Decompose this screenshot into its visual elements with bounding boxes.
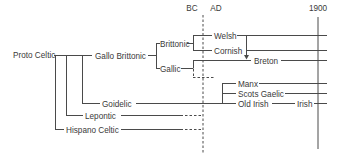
node-hispano-celtic: Hispano Celtic — [66, 126, 119, 135]
gallic-group: Gallic — [160, 61, 251, 78]
node-old-irish: Old Irish — [238, 100, 269, 109]
node-welsh: Welsh — [214, 32, 237, 41]
gallo-brittonic-group: Gallo Brittonic — [95, 43, 160, 69]
manx-group: Manx — [238, 80, 327, 89]
node-brittonic: Brittonic — [160, 40, 190, 49]
node-cornish: Cornish — [214, 47, 243, 56]
scots-gaelic-group: Scots Gaelic — [238, 90, 327, 99]
node-breton: Breton — [254, 57, 279, 66]
goidelic-group: Goidelic — [82, 83, 236, 109]
arrowhead-icon — [244, 55, 249, 60]
node-proto-celtic: Proto Celtic — [13, 51, 55, 60]
cornish-group: Cornish — [214, 47, 327, 56]
brittonic-group: Brittonic — [160, 36, 212, 51]
node-scots-gaelic: Scots Gaelic — [238, 90, 284, 99]
bc-label: BC — [186, 4, 197, 13]
breton-group: Breton — [254, 57, 327, 66]
old-irish-group: Old Irish Irish — [238, 100, 327, 109]
lepontic-group: Lepontic — [66, 112, 203, 121]
proto-celtic-group: Proto Celtic — [13, 51, 92, 130]
node-irish: Irish — [297, 100, 313, 109]
node-lepontic: Lepontic — [85, 112, 116, 121]
celtic-language-tree: BC AD 1900 Proto Celtic Gallo Brittonic … — [0, 0, 339, 154]
timeline: BC AD 1900 — [186, 4, 327, 153]
node-manx: Manx — [238, 80, 258, 89]
node-gallo-brittonic: Gallo Brittonic — [95, 52, 146, 61]
ad-label: AD — [210, 4, 221, 13]
hispano-celtic-group: Hispano Celtic — [55, 126, 203, 135]
node-goidelic: Goidelic — [102, 100, 132, 109]
node-gallic: Gallic — [160, 65, 180, 74]
year-1900-label: 1900 — [309, 4, 328, 13]
